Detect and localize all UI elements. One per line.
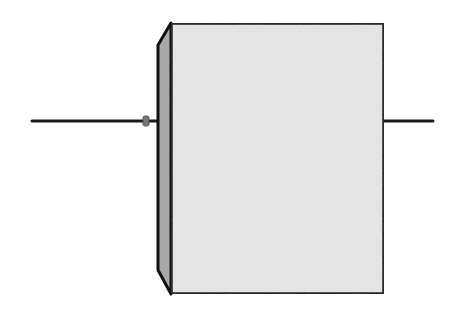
component-drawing — [0, 0, 462, 312]
lead-bead — [143, 116, 149, 126]
side-bevel — [158, 23, 171, 294]
front-face — [171, 23, 384, 294]
diagram-canvas: Side-profile line drawing of a box-shape… — [0, 0, 462, 312]
